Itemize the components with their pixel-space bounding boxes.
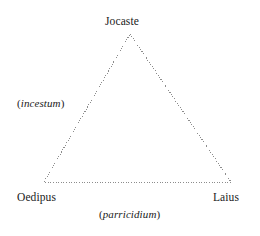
- close-paren: ): [61, 97, 65, 109]
- triangle-diagram: Jocaste Oedipus Laius (incestum) (parric…: [0, 0, 260, 236]
- triangle-shape: [44, 34, 231, 182]
- node-label-jocaste: Jocaste: [105, 15, 139, 28]
- edge-label-parricidium: (parricidium): [99, 208, 160, 221]
- edge-term-incestum: incestum: [21, 97, 61, 109]
- edge-label-incestum: (incestum): [17, 97, 64, 110]
- node-label-laius: Laius: [213, 191, 239, 204]
- edge-term-parricidium: parricidium: [103, 208, 157, 220]
- node-label-oedipus: Oedipus: [17, 191, 56, 204]
- close-paren: ): [156, 208, 160, 220]
